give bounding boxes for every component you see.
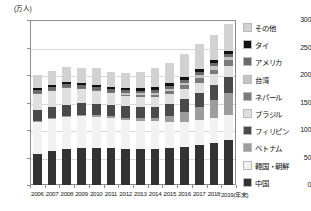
- bar-segment: [136, 149, 145, 185]
- bar-segment: [62, 116, 71, 117]
- bar-group: [92, 20, 101, 185]
- bar-segment: [136, 97, 145, 107]
- bar-segment: [210, 70, 219, 75]
- bar-segment: [107, 93, 116, 105]
- bar-segment: [210, 143, 219, 185]
- bar-segment: [48, 85, 57, 87]
- bar-segment: [195, 44, 204, 69]
- bar-segment: [165, 94, 174, 104]
- bar-segment: [224, 54, 233, 57]
- bar-segment: [195, 69, 204, 72]
- bar-group: [121, 20, 130, 185]
- bar-segment: [180, 80, 189, 83]
- bar-segment: [62, 117, 71, 149]
- bar-segment: [151, 87, 160, 89]
- legend-item[interactable]: ネパール: [243, 88, 311, 105]
- bar-segment: [136, 107, 145, 119]
- bar-segment: [33, 88, 42, 90]
- bar-group: [195, 20, 204, 185]
- legend-item[interactable]: フィリピン: [243, 122, 311, 139]
- bar-segment: [107, 89, 116, 92]
- bar-segment: [107, 118, 116, 148]
- bar-segment: [107, 87, 116, 89]
- legend-swatch-icon: [243, 75, 252, 84]
- bar-segment: [107, 92, 116, 93]
- bar-segment: [107, 105, 116, 116]
- bar-segment: [33, 154, 42, 185]
- legend-item[interactable]: 中国: [243, 174, 311, 191]
- bar-group: [165, 20, 174, 185]
- legend-item[interactable]: ベトナム: [243, 139, 311, 156]
- legend-item[interactable]: その他: [243, 19, 311, 36]
- legend-swatch-icon: [243, 109, 252, 118]
- bar-segment: [92, 148, 101, 185]
- y-axis-unit-label: (万人): [14, 3, 32, 13]
- x-axis-tick-mark: [236, 185, 237, 188]
- bar-group: [224, 20, 233, 185]
- legend-swatch-icon: [243, 126, 252, 135]
- bar-segment: [62, 67, 71, 82]
- bar-segment: [210, 60, 219, 63]
- bar-segment: [210, 85, 219, 100]
- bar-segment: [62, 105, 71, 117]
- bar-segment: [165, 89, 174, 92]
- bar-segment: [121, 73, 130, 88]
- legend-swatch-icon: [243, 161, 252, 170]
- bar-group: [62, 20, 71, 185]
- bar-segment: [107, 72, 116, 86]
- bar-segment: [48, 71, 57, 85]
- bar-segment: [195, 75, 204, 78]
- x-axis-tick-mark: [207, 185, 208, 188]
- bar-segment: [151, 95, 160, 97]
- bar-segment: [121, 106, 130, 117]
- bar-segment: [224, 115, 233, 140]
- bars-layer: [30, 20, 236, 185]
- legend-item[interactable]: アメリカ: [243, 53, 311, 70]
- bar-segment: [92, 90, 101, 91]
- bar-segment: [48, 87, 57, 90]
- bar-segment: [136, 72, 145, 89]
- bar-segment: [92, 91, 101, 104]
- bar-segment: [62, 87, 71, 88]
- legend-item[interactable]: タイ: [243, 36, 311, 53]
- bar-segment: [92, 115, 101, 117]
- bar-segment: [210, 35, 219, 60]
- bar-segment: [151, 90, 160, 93]
- bar-segment: [180, 85, 189, 89]
- bar-segment: [151, 118, 160, 121]
- bar-segment: [136, 88, 145, 90]
- bar-segment: [92, 104, 101, 116]
- legend-label: その他: [255, 22, 275, 33]
- bar-segment: [77, 116, 86, 147]
- x-axis-tick-mark: [148, 185, 149, 188]
- bar-segment: [48, 118, 57, 119]
- bar-segment: [77, 115, 86, 116]
- bar-segment: [121, 90, 130, 93]
- bar-segment: [151, 68, 160, 87]
- bar-segment: [121, 96, 130, 106]
- bar-segment: [195, 78, 204, 82]
- bar-group: [33, 20, 42, 185]
- bar-segment: [121, 120, 130, 149]
- bar-segment: [224, 60, 233, 66]
- bar-segment: [180, 77, 189, 80]
- bar-segment: [62, 149, 71, 185]
- bar-segment: [165, 86, 174, 89]
- legend-item[interactable]: 台湾: [243, 71, 311, 88]
- bar-segment: [62, 88, 71, 105]
- legend-item[interactable]: ブラジル: [243, 105, 311, 122]
- bar-segment: [180, 89, 189, 99]
- bar-segment: [180, 54, 189, 77]
- bar-segment: [210, 63, 219, 66]
- bar-segment: [62, 82, 71, 84]
- bar-segment: [210, 100, 219, 118]
- legend-label: ネパール: [255, 91, 282, 102]
- bar-segment: [151, 107, 160, 119]
- bar-segment: [165, 91, 174, 94]
- bar-segment: [195, 107, 204, 120]
- legend-swatch-icon: [243, 23, 252, 32]
- x-axis-tick-mark: [177, 185, 178, 188]
- bar-segment: [121, 93, 130, 94]
- bar-segment: [62, 84, 71, 87]
- legend-item[interactable]: 韓国・朝鮮: [243, 157, 311, 174]
